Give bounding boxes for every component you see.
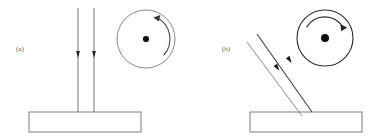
panel-b-disc-hub [321,34,329,42]
panel-b-label: (b) [222,45,231,53]
panel-a-beam-arrow-2 [92,51,96,58]
panel-a-rotation-arrowhead [153,15,160,22]
diagram-svg: (a) (b) [0,0,390,140]
panel-b-beam-line-2 [247,42,302,116]
panel-b-rotation-arrowhead [340,24,347,31]
panel-b-beam-arrow-1 [286,56,292,63]
panel-a-rotation-arc [157,18,170,55]
panel-a-base-block [29,112,141,132]
panel-b-base-block [250,112,362,132]
panel-b-rotation-arc [307,17,344,28]
panel-b-beam-line-1 [257,34,312,112]
panel-a-label: (a) [16,45,24,53]
panel-a-beam-arrow-1 [76,51,80,58]
panel-b: (b) [222,10,362,132]
panel-a-disc-hub [143,36,149,42]
figure-canvas: (a) (b) [0,0,390,140]
panel-a: (a) [16,8,175,132]
